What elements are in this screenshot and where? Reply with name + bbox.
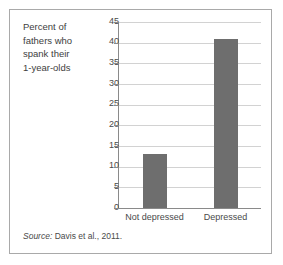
y-axis-tick-label: 45: [79, 16, 119, 26]
y-axis-tick-label: 5: [79, 181, 119, 191]
y-gridline: [119, 167, 261, 168]
x-axis-tick-label: Not depressed: [125, 212, 184, 222]
y-gridline: [119, 146, 261, 147]
y-gridline: [119, 84, 261, 85]
bar: [143, 154, 167, 208]
y-axis-tick-label: 35: [79, 57, 119, 67]
y-gridline: [119, 187, 261, 188]
y-axis-tick-label: 40: [79, 36, 119, 46]
y-gridline: [119, 105, 261, 106]
y-axis-tick-label: 10: [79, 160, 119, 170]
x-axis-baseline: [118, 208, 261, 209]
source-note: Source: Davis et al., 2011.: [23, 231, 122, 241]
bar: [214, 39, 238, 208]
y-gridline: [119, 125, 261, 126]
figure-frame: Percent of fathers who spank their 1-yea…: [9, 9, 272, 254]
x-axis-tick-label: Depressed: [204, 212, 248, 222]
y-axis-tick-label: 20: [79, 119, 119, 129]
y-gridline: [119, 43, 261, 44]
y-axis-tick-label: 30: [79, 78, 119, 88]
y-gridline: [119, 22, 261, 23]
source-citation: Davis et al., 2011.: [52, 231, 122, 241]
plot-area: 051015202530354045 Not depressedDepresse…: [109, 22, 261, 208]
y-axis-tick-label: 25: [79, 98, 119, 108]
y-axis-tick-label: 0: [79, 202, 119, 212]
y-axis-tick-label: 15: [79, 140, 119, 150]
y-gridline: [119, 63, 261, 64]
source-label: Source:: [23, 231, 52, 241]
